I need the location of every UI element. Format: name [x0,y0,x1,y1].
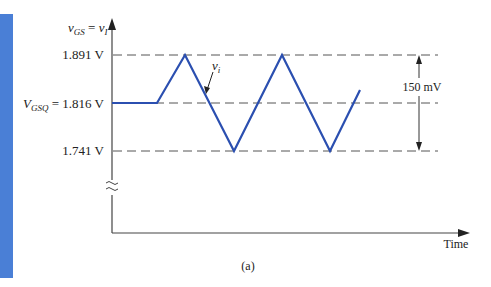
level-label-max: 1.891 V [62,47,104,62]
figure-root: vGS = vI 1.891 V VGSQ = 1.816 V 1.741 V … [0,0,491,287]
y-axis [106,18,118,233]
figure-caption: (a) [241,259,254,273]
triangle-waveform [112,55,360,151]
waveform-diagram: vGS = vI 1.891 V VGSQ = 1.816 V 1.741 V … [0,0,491,287]
level-label-min: 1.741 V [62,143,104,158]
signal-pointer [204,72,213,94]
axis-break-icon [106,182,118,191]
level-label-quiescent: VGSQ = 1.816 V [23,96,105,113]
signal-label: vi [212,58,221,75]
y-axis-label: vGS = vI [68,20,108,37]
amplitude-label: 150 mV [403,80,442,94]
x-axis-label: Time [444,237,469,251]
x-axis [112,229,470,237]
